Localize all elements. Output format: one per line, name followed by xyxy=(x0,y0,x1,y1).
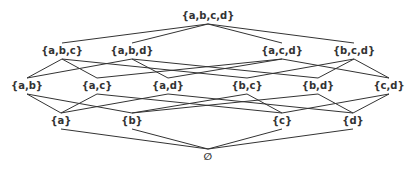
edge-a-empty xyxy=(61,129,208,149)
edge-abcd-bcd xyxy=(208,24,354,43)
node-c: {c} xyxy=(272,116,292,126)
node-abd: {a,b,d} xyxy=(111,46,154,56)
edge-d-empty xyxy=(208,129,353,149)
edge-abcd-abc xyxy=(62,24,208,43)
node-bd: {b,d} xyxy=(302,81,334,91)
node-abc: {a,b,c} xyxy=(41,46,83,56)
node-acd: {a,c,d} xyxy=(261,46,303,56)
edge-c-empty xyxy=(208,129,282,149)
node-d: {d} xyxy=(342,116,363,126)
edges-layer xyxy=(0,0,416,173)
node-ac: {a,c} xyxy=(82,81,113,91)
node-empty: ∅ xyxy=(204,152,213,162)
edge-abcd-acd xyxy=(208,24,282,43)
edge-abcd-abd xyxy=(132,24,208,43)
node-a: {a} xyxy=(51,116,72,126)
edge-abc-bc xyxy=(62,59,247,78)
node-bcd: {b,c,d} xyxy=(333,46,375,56)
edge-cd-c xyxy=(282,94,389,113)
edge-bd-b xyxy=(132,94,318,113)
edge-abd-ab xyxy=(27,59,132,78)
node-b: {b} xyxy=(121,116,142,126)
edge-b-empty xyxy=(132,129,208,149)
node-ad: {a,d} xyxy=(152,81,184,91)
node-abcd: {a,b,c,d} xyxy=(182,11,235,21)
node-bc: {b,c} xyxy=(231,81,262,91)
node-cd: {c,d} xyxy=(373,81,404,91)
edge-acd-ac xyxy=(97,59,282,78)
node-ab: {a,b} xyxy=(11,81,43,91)
edge-ad-d xyxy=(168,94,353,113)
